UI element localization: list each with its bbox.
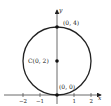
point-top (55, 25, 59, 29)
x-tick-label: −1 (36, 98, 44, 104)
origin-point-label: (0, 0) (59, 83, 75, 90)
top-point-label: (0, 4) (63, 19, 79, 26)
x-tick-label: −2 (19, 98, 27, 104)
x-tick-label: 2 (90, 98, 94, 104)
y-axis-label: y (58, 6, 63, 14)
center-point-label: C(0, 2) (28, 57, 49, 64)
x-tick-label: 1 (73, 98, 77, 104)
point-origin (55, 93, 59, 97)
point-center (55, 59, 59, 63)
circle-diagram: x y −2 −1 1 2 (0, 4) C(0, 2) (0, 0) (0, 0, 111, 106)
x-axis-label: x (98, 94, 102, 101)
